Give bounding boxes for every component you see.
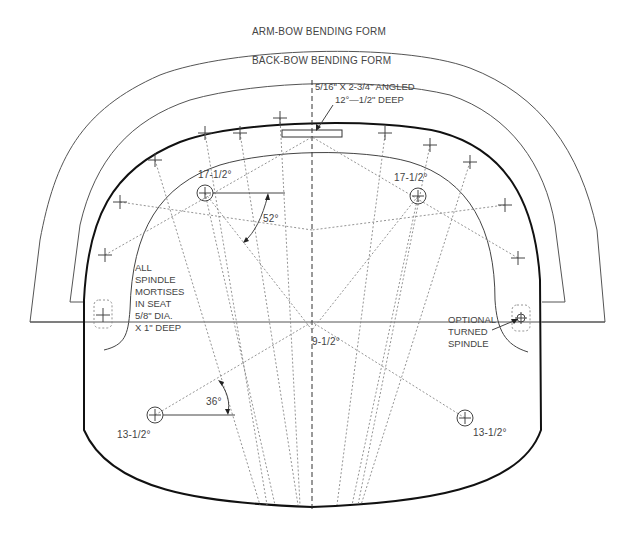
leg-angle-front-left: 17-1/2° [198,169,232,180]
center-angle-label: 9-1/2° [312,336,340,347]
mortise-leader [318,105,333,128]
leg-hole-rear-left [147,407,163,423]
mortise-note-line2: 12°—1/2" DEEP [335,94,404,105]
leg-hole-front-right [410,188,426,204]
leg-angle-rear-left: 13-1/2° [117,429,151,440]
spindle-note-line4: IN SEAT [135,298,171,309]
mortise-note-line1: 5/16" X 2-3/4" ANGLED [315,81,415,92]
leg-hole-front-left [197,185,213,201]
bending-form-diagram: ARM-BOW BENDING FORM BACK-BOW BENDING FO… [0,0,625,535]
angle-36-label: 36° [206,396,222,407]
leg-hole-rear-right [457,410,473,426]
spindle-note-line3: MORTISES [135,286,184,297]
optional-note-line3: SPINDLE [448,338,489,349]
spindle-note-line2: SPINDLE [135,274,176,285]
leg-angle-rear-right: 13-1/2° [473,427,507,438]
optional-note-line1: OPTIONAL [448,314,496,325]
arm-bow-form-label: ARM-BOW BENDING FORM [252,26,386,37]
back-bow-form-label: BACK-BOW BENDING FORM [252,55,391,66]
spindle-note-line6: X 1" DEEP [135,322,181,333]
optional-note-line2: TURNED [448,326,488,337]
angle-52-label: 52° [263,213,279,224]
spindle-note-line5: 5/8" DIA. [135,310,173,321]
leg-angle-front-right: 17-1/2° [394,172,428,183]
spindle-note-line1: ALL [135,262,152,273]
